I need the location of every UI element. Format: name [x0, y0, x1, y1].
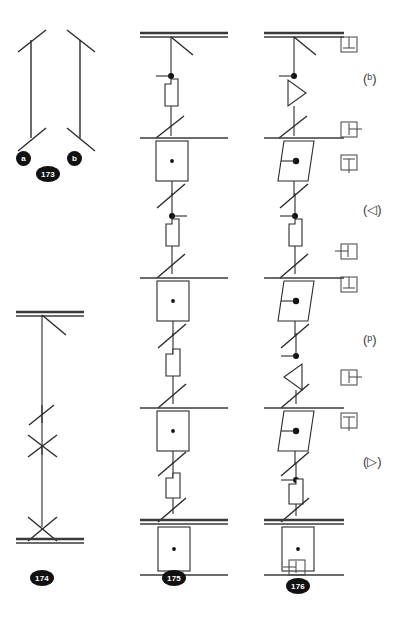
figure-number-175: 175 — [162, 570, 186, 586]
figure-173-diagram — [14, 28, 114, 153]
annotation-box-4 — [334, 240, 360, 262]
drawing-sheet: a b 173 174 — [0, 0, 404, 634]
annotation-box-1 — [338, 33, 360, 55]
figure-number-174: 174 — [30, 570, 54, 586]
annotation-box-3 — [338, 152, 360, 174]
figure-175-diagram — [138, 28, 234, 548]
terminal-label-b: b — [67, 151, 82, 166]
annotation-paren-1: (ᵇ) — [363, 72, 377, 85]
annotation-paren-3: (ᵖ) — [363, 333, 377, 346]
annotation-box-2 — [338, 118, 364, 140]
annotation-box-8 — [282, 556, 308, 578]
figure-number-173: 173 — [36, 166, 60, 182]
annotation-box-5 — [338, 274, 360, 296]
annotation-paren-4: (▷) — [363, 455, 382, 468]
terminal-label-a: a — [16, 151, 31, 166]
figure-174-diagram — [14, 305, 94, 555]
annotation-box-7 — [338, 410, 360, 432]
figure-number-176: 176 — [286, 578, 310, 594]
annotation-box-6 — [338, 366, 364, 388]
annotation-paren-2: (◁) — [363, 203, 382, 216]
